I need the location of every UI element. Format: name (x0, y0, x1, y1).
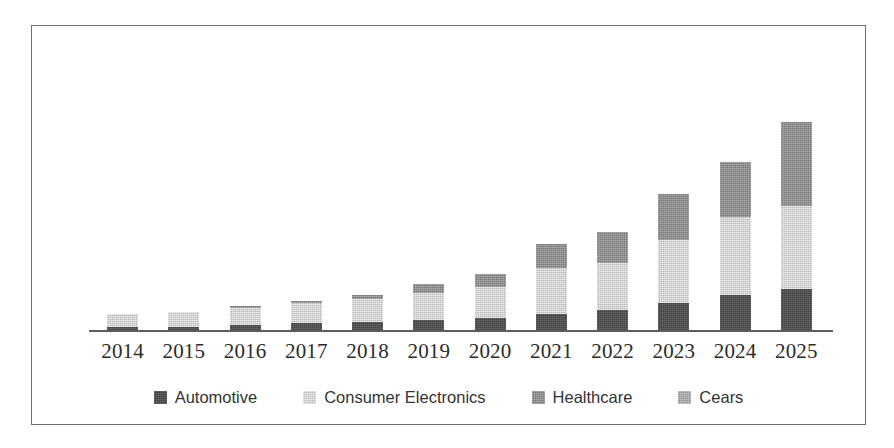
bar-segment (475, 318, 506, 331)
bar-stack (536, 244, 567, 331)
bar-stack (352, 295, 383, 331)
bar-segment (230, 308, 261, 325)
x-axis-line (89, 330, 833, 332)
bar-stack (230, 306, 261, 331)
bar-stack (291, 301, 322, 331)
bar-segment (413, 293, 444, 320)
legend-label: Cears (699, 388, 743, 407)
x-axis-tick-labels: 2014201520162017201820192020202120222023… (32, 336, 865, 366)
bar-segment (475, 287, 506, 317)
bar-segment (658, 194, 689, 240)
bar-stack (720, 162, 751, 331)
bar-segment (475, 274, 506, 287)
bar-segment (720, 295, 751, 331)
bar-segment (720, 162, 751, 217)
x-tick-label-2023: 2023 (643, 336, 705, 366)
x-tick-label-2021: 2021 (520, 336, 582, 366)
bar-segment (781, 206, 812, 290)
chart-legend: AutomotiveConsumer ElectronicsHealthcare… (32, 384, 865, 410)
x-tick-label-2019: 2019 (398, 336, 460, 366)
bar-segment (536, 268, 567, 314)
legend-label: Healthcare (553, 388, 633, 407)
plot-area: 2014201520162017201820192020202120222023… (32, 26, 865, 424)
bar-segment (291, 303, 322, 324)
bar-segment (658, 303, 689, 332)
x-tick-label-2020: 2020 (459, 336, 521, 366)
x-tick-label-2025: 2025 (765, 336, 827, 366)
legend-item-consumer[interactable]: Consumer Electronics (303, 388, 485, 407)
bar-stack (781, 122, 812, 331)
x-tick-label-2014: 2014 (92, 336, 154, 366)
bar-stack (107, 314, 138, 331)
bar-segment (597, 263, 628, 311)
legend-item-healthcare[interactable]: Healthcare (532, 388, 633, 407)
legend-label: Consumer Electronics (324, 388, 485, 407)
bar-segment (168, 312, 199, 327)
bar-segment (781, 289, 812, 331)
x-tick-label-2017: 2017 (275, 336, 337, 366)
bar-segment (536, 244, 567, 269)
bar-segment (597, 310, 628, 331)
legend-label: Automotive (175, 388, 258, 407)
bar-segment (107, 314, 138, 327)
bar-segment (597, 232, 628, 262)
x-tick-label-2015: 2015 (153, 336, 215, 366)
bar-segment (781, 122, 812, 206)
x-tick-label-2016: 2016 (214, 336, 276, 366)
x-tick-label-2022: 2022 (582, 336, 644, 366)
bar-segment (536, 314, 567, 331)
x-tick-label-2024: 2024 (704, 336, 766, 366)
bar-segment (720, 217, 751, 295)
legend-swatch-icon (678, 391, 691, 404)
legend-item-automotive[interactable]: Automotive (154, 388, 258, 407)
legend-swatch-icon (154, 391, 167, 404)
bar-stack (475, 274, 506, 331)
legend-item-gears[interactable]: Cears (678, 388, 743, 407)
bar-stack (597, 232, 628, 331)
chart-frame: 2014201520162017201820192020202120222023… (31, 25, 866, 425)
bar-segment (658, 240, 689, 303)
bar-stack (168, 312, 199, 331)
legend-swatch-icon (303, 391, 316, 404)
bar-segment (413, 284, 444, 294)
bar-stack (658, 194, 689, 331)
legend-swatch-icon (532, 391, 545, 404)
bar-segment (352, 299, 383, 322)
bar-stack (413, 284, 444, 331)
x-tick-label-2018: 2018 (337, 336, 399, 366)
